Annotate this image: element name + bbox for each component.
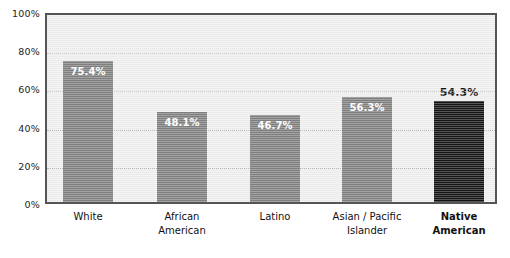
bar-value-native-american: 54.3%: [440, 86, 479, 99]
x-axis: White African American Latino Asian / Pa…: [45, 210, 497, 256]
x-label-african-american-line1: African: [165, 211, 200, 222]
y-tick-label-20: 20%: [0, 160, 40, 171]
y-tick-label-100: 100%: [0, 8, 40, 19]
plot-area: 75.4% 48.1% 46.7% 56.3% 54.3%: [45, 13, 497, 204]
x-label-native-american: Native American: [404, 210, 510, 238]
bar-value-asian-pacific-islander: 56.3%: [349, 102, 384, 113]
bar-native-american[interactable]: 54.3%: [434, 101, 484, 203]
gridline-80: [47, 53, 495, 54]
x-label-white-line1: White: [73, 211, 102, 222]
bar-asian-pacific-islander[interactable]: 56.3%: [342, 97, 392, 202]
y-tick-label-40: 40%: [0, 122, 40, 133]
y-axis: 100% 80% 60% 40% 20% 0%: [0, 13, 40, 204]
bar-white[interactable]: 75.4%: [63, 61, 113, 202]
bar-value-latino: 46.7%: [257, 120, 292, 131]
bar-value-african-american: 48.1%: [164, 117, 199, 128]
x-label-african-american-line2: American: [127, 224, 237, 238]
x-label-asian-pacific-islander-line1: Asian / Pacific: [333, 211, 402, 222]
bar-african-american[interactable]: 48.1%: [157, 112, 207, 202]
x-label-latino-line1: Latino: [260, 211, 291, 222]
y-tick-label-60: 60%: [0, 84, 40, 95]
y-tick-label-0: 0%: [0, 199, 40, 210]
y-tick-label-80: 80%: [0, 46, 40, 57]
x-label-native-american-line2: American: [404, 224, 510, 238]
x-label-native-american-line1: Native: [441, 211, 478, 222]
bar-chart: 100% 80% 60% 40% 20% 0% 75.4% 48.1% 46.7…: [0, 0, 510, 258]
gridline-60: [47, 91, 495, 92]
bar-latino[interactable]: 46.7%: [250, 115, 300, 202]
bar-value-white: 75.4%: [70, 66, 105, 77]
